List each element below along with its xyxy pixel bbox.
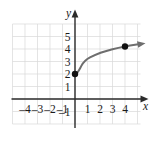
- coordinate-graph-figure: –4 –3 –2 –1 1 2 3 4 –1 1 2 3 4 5 x y: [0, 0, 159, 151]
- x-tick-label: 3: [110, 103, 116, 115]
- x-tick-label: –3: [31, 103, 44, 115]
- x-tick-label: –4: [18, 103, 31, 115]
- y-tick-label: 3: [65, 56, 71, 68]
- x-tick-label: 1: [85, 103, 91, 115]
- x-axis-label: x: [142, 100, 149, 112]
- y-tick-label: 4: [65, 43, 71, 55]
- y-tick-label: 5: [65, 31, 71, 43]
- y-axis-label: y: [65, 7, 72, 20]
- figure-background: [0, 0, 159, 151]
- x-tick-label: –2: [43, 103, 56, 115]
- x-tick-label: 2: [97, 103, 103, 115]
- start-point-marker: [72, 71, 78, 77]
- y-tick-label: 2: [65, 68, 71, 80]
- y-tick-label: –1: [58, 106, 71, 118]
- x-tick-label: 4: [122, 103, 128, 115]
- end-point-marker: [122, 43, 128, 49]
- y-tick-label: 1: [65, 81, 71, 93]
- graph-canvas: –4 –3 –2 –1 1 2 3 4 –1 1 2 3 4 5 x y: [0, 0, 159, 151]
